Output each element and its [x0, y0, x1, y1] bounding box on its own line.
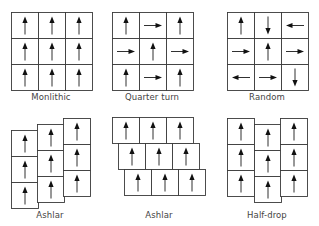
tile: [12, 39, 39, 65]
tile: [38, 125, 65, 151]
tile: [12, 65, 39, 91]
tile: [281, 171, 308, 197]
tile: [38, 177, 65, 203]
tile: [39, 13, 66, 39]
tile: [12, 13, 39, 39]
tile: [255, 65, 282, 91]
tile: [228, 119, 255, 145]
tile: [113, 39, 140, 65]
tile: [66, 39, 93, 65]
tile: [228, 13, 255, 39]
tile: [140, 13, 167, 39]
tile: [255, 151, 282, 177]
tile: [140, 65, 167, 91]
tile: [12, 157, 39, 183]
tile: [255, 177, 282, 203]
tile: [64, 171, 91, 197]
tile: [39, 65, 66, 91]
pattern-quarter-turn: [113, 13, 194, 91]
tile: [281, 145, 308, 171]
pattern-ashlar-vertical: [12, 119, 91, 209]
tile: [228, 65, 255, 91]
tile: [255, 125, 282, 151]
pattern-random: [228, 13, 309, 91]
tile: [173, 144, 200, 170]
tile: [119, 144, 146, 170]
tile: [66, 13, 93, 39]
tile: [66, 65, 93, 91]
tile: [152, 170, 179, 196]
tile: [179, 170, 206, 196]
tile: [64, 145, 91, 171]
tile: [228, 39, 255, 65]
tile: [125, 170, 152, 196]
tile: [140, 118, 167, 144]
tile: [167, 13, 194, 39]
tile: [255, 39, 282, 65]
tile: [64, 119, 91, 145]
label-ashlar-horizontal: Ashlar: [109, 210, 209, 220]
tile: [255, 13, 282, 39]
pattern-ashlar-horizontal: [113, 118, 206, 196]
tile: [113, 13, 140, 39]
tile: [167, 39, 194, 65]
tile: [167, 65, 194, 91]
tile: [146, 144, 173, 170]
label-quarter-turn: Quarter turn: [102, 92, 202, 102]
tile: [12, 131, 39, 157]
tile: [167, 118, 194, 144]
tile: [282, 39, 309, 65]
label-ashlar-vertical: Ashlar: [0, 210, 100, 220]
tile: [140, 39, 167, 65]
label-random: Random: [217, 92, 317, 102]
tile: [281, 119, 308, 145]
tile: [12, 183, 39, 209]
tile-pattern-diagram: [0, 0, 319, 226]
tile: [38, 151, 65, 177]
tile: [282, 13, 309, 39]
tile: [228, 171, 255, 197]
tile: [39, 39, 66, 65]
tile: [113, 65, 140, 91]
pattern-monolithic: [12, 13, 93, 91]
tile: [228, 145, 255, 171]
pattern-half-drop: [228, 119, 308, 203]
tile: [282, 65, 309, 91]
label-half-drop: Half-drop: [217, 210, 317, 220]
tile: [113, 118, 140, 144]
label-monolithic: Monlithic: [1, 92, 101, 102]
